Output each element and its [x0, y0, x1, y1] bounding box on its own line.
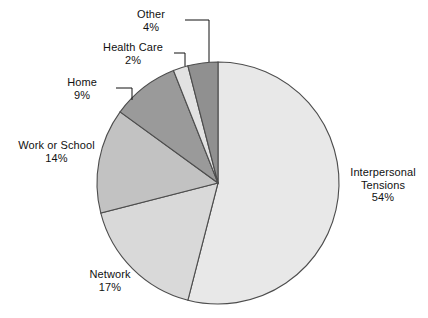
leader-line-other: [185, 20, 209, 62]
slice-label-interpersonal-tensions-name-line1: Interpersonal: [340, 166, 426, 179]
slice-label-home: Home 9%: [53, 76, 111, 101]
pie-chart: Other 4% Health Care 2% Home 9% Work or …: [0, 0, 428, 318]
leader-line-home: [116, 88, 132, 100]
slice-label-home-pct: 9%: [53, 89, 111, 102]
slice-label-interpersonal-tensions: Interpersonal Tensions 54%: [340, 166, 426, 204]
slice-label-other-name: Other: [118, 8, 184, 21]
slice-label-health-care-pct: 2%: [96, 54, 170, 67]
slice-label-interpersonal-tensions-pct: 54%: [340, 191, 426, 204]
slice-label-other: Other 4%: [118, 8, 184, 33]
slice-label-network-name: Network: [76, 268, 144, 281]
slice-label-network-pct: 17%: [76, 281, 144, 294]
slice-label-home-name: Home: [53, 76, 111, 89]
slice-label-other-pct: 4%: [118, 21, 184, 34]
slice-label-work-or-school-pct: 14%: [8, 152, 105, 165]
slice-label-health-care: Health Care 2%: [96, 41, 170, 66]
slice-label-work-or-school-name: Work or School: [8, 139, 105, 152]
slice-label-network: Network 17%: [76, 268, 144, 293]
leader-line-health-care: [174, 53, 185, 66]
slice-label-work-or-school: Work or School 14%: [8, 139, 105, 164]
slice-label-interpersonal-tensions-name-line2: Tensions: [340, 179, 426, 192]
slice-label-health-care-name: Health Care: [96, 41, 170, 54]
